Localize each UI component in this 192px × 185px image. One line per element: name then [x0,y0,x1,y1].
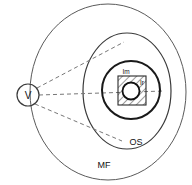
label-hatched-im: Im [122,68,129,75]
upper-dashed-ray [37,42,124,88]
outer-ellipse-mf [30,4,186,180]
label-middle-os: OS [129,137,142,147]
label-source-v: V [25,90,32,101]
label-outer-mf: MF [98,160,111,170]
schematic-diagram: V Im Ir OS MF [0,0,192,185]
core-circle-ir [123,83,140,100]
diagram-canvas: V Im Ir OS MF [0,0,192,185]
